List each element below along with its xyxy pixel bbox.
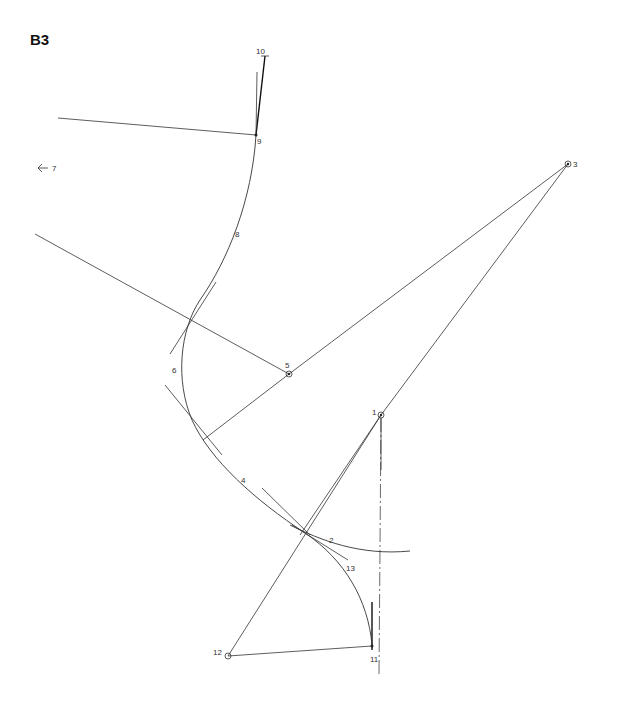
line-1-12 (228, 415, 381, 656)
tangent-4 (262, 488, 310, 535)
label-10: 10 (256, 47, 265, 56)
tangent-6 (165, 385, 222, 455)
label-7: 7 (52, 164, 57, 173)
line-left-9 (58, 118, 256, 135)
line-5-arc (203, 374, 289, 440)
line-3-1 (381, 164, 568, 415)
label-3: 3 (573, 160, 578, 169)
label-8: 8 (235, 230, 240, 239)
line-12-11 (228, 646, 372, 656)
label-9: 9 (257, 137, 262, 146)
tangent-upper (170, 282, 216, 354)
label-12: 12 (213, 648, 222, 657)
label-6: 6 (172, 366, 177, 375)
label-11: 11 (370, 655, 379, 664)
point-3-dot (567, 163, 569, 165)
curve-upper (182, 135, 305, 533)
arc-2 (290, 525, 410, 552)
point-11-dot (371, 645, 374, 648)
line-left-5 (35, 234, 289, 374)
label-13: 13 (346, 564, 355, 573)
construction-diagram: 10 9 7 3 8 5 6 1 4 2 13 12 11 (0, 0, 617, 706)
line-9-10 (256, 56, 265, 135)
label-4: 4 (241, 476, 246, 485)
line-3-5 (289, 164, 568, 374)
point-1-dot (380, 414, 382, 416)
label-1: 1 (372, 408, 377, 417)
label-5: 5 (285, 361, 290, 370)
point-5-dot (288, 373, 290, 375)
arrow-left-icon (38, 164, 48, 172)
label-2: 2 (329, 536, 334, 545)
line-1-2 (300, 415, 381, 535)
